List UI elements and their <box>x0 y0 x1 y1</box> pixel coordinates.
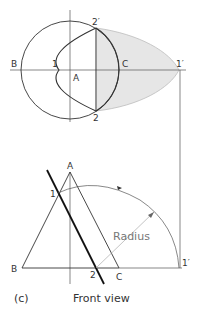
label-1-top: 1 <box>52 59 58 69</box>
label-C-front: C <box>116 272 122 282</box>
radius-label: Radius <box>113 230 150 243</box>
section-curve-left <box>56 28 96 111</box>
label-C-top: C <box>122 59 128 69</box>
label-B-top: B <box>11 59 17 69</box>
label-2-front: 2 <box>90 270 96 280</box>
label-1prime-front: 1′ <box>182 258 190 268</box>
cone-section-diagram: B 1 A C 1′ 2′ 2 A 1 B 2 C 1′ Radius (c) <box>0 0 197 315</box>
front-view: A 1 B 2 C 1′ Radius (c) Front view <box>11 161 190 305</box>
label-B-front: B <box>11 264 17 274</box>
label-A-front: A <box>67 161 74 171</box>
label-2prime-top: 2′ <box>92 17 100 27</box>
top-view: B 1 A C 1′ 2′ 2 <box>10 10 186 268</box>
view-title: Front view <box>73 292 130 305</box>
figure-letter: (c) <box>14 292 29 305</box>
arc-arrow-icon <box>117 186 122 190</box>
label-1-front: 1 <box>50 189 56 199</box>
label-A-top: A <box>73 73 80 83</box>
label-2-top: 2 <box>93 113 99 123</box>
label-1prime-top: 1′ <box>176 59 184 69</box>
